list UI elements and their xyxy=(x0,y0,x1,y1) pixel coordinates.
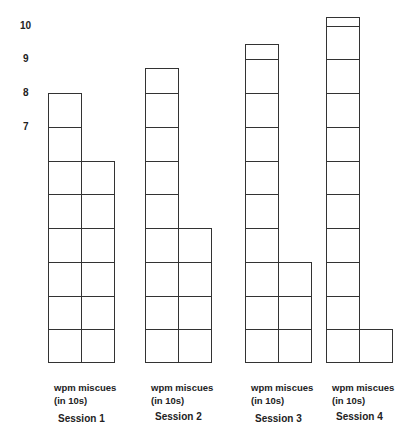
miscues-bar xyxy=(278,262,312,363)
y-tick-label: 7 xyxy=(23,121,29,132)
wpm-bar xyxy=(48,93,82,363)
y-tick-label: 8 xyxy=(23,87,29,98)
bar-series-label: wpm miscues(in 10s) xyxy=(332,381,394,407)
cell-divider xyxy=(82,262,114,263)
cell-divider xyxy=(246,296,278,297)
cell-divider xyxy=(327,59,359,60)
cell-divider xyxy=(327,26,359,27)
cell-divider xyxy=(246,161,278,162)
cell-divider xyxy=(146,93,178,94)
cell-divider xyxy=(327,329,359,330)
cell-divider xyxy=(327,161,359,162)
cell-divider xyxy=(49,262,81,263)
cell-divider xyxy=(179,296,211,297)
cell-divider xyxy=(327,93,359,94)
cell-divider xyxy=(82,296,114,297)
cell-divider xyxy=(49,127,81,128)
session-label: Session 2 xyxy=(155,411,202,422)
cell-divider xyxy=(49,329,81,330)
miscues-bar xyxy=(178,228,212,363)
cell-divider xyxy=(146,262,178,263)
cell-divider xyxy=(146,161,178,162)
cell-divider xyxy=(246,262,278,263)
cell-divider xyxy=(49,161,81,162)
wpm-bar xyxy=(245,44,279,363)
cell-divider xyxy=(82,329,114,330)
cell-divider xyxy=(146,194,178,195)
cell-divider xyxy=(246,127,278,128)
wpm-bar xyxy=(326,17,360,363)
y-tick-label: 10 xyxy=(20,20,31,31)
session-bar-chart: 78910 wpm miscues(in 10s)Session 1wpm mi… xyxy=(0,0,414,435)
cell-divider xyxy=(179,262,211,263)
wpm-bar xyxy=(145,68,179,363)
cell-divider xyxy=(246,228,278,229)
bar-series-label: wpm miscues(in 10s) xyxy=(54,381,116,407)
cell-divider xyxy=(279,296,311,297)
cell-divider xyxy=(146,296,178,297)
cell-divider xyxy=(327,228,359,229)
cell-divider xyxy=(146,127,178,128)
cell-divider xyxy=(49,228,81,229)
cell-divider xyxy=(327,296,359,297)
bar-series-label: wpm miscues(in 10s) xyxy=(251,381,313,407)
cell-divider xyxy=(246,194,278,195)
cell-divider xyxy=(82,194,114,195)
bar-series-label: wpm miscues(in 10s) xyxy=(151,381,213,407)
miscues-bar xyxy=(359,329,393,363)
session-label: Session 1 xyxy=(58,413,105,424)
cell-divider xyxy=(327,194,359,195)
cell-divider xyxy=(82,228,114,229)
cell-divider xyxy=(246,93,278,94)
cell-divider xyxy=(246,59,278,60)
cell-divider xyxy=(246,329,278,330)
cell-divider xyxy=(327,127,359,128)
cell-divider xyxy=(49,194,81,195)
cell-divider xyxy=(146,329,178,330)
y-tick-label: 9 xyxy=(23,53,29,64)
cell-divider xyxy=(49,296,81,297)
miscues-bar xyxy=(81,161,115,364)
cell-divider xyxy=(179,329,211,330)
session-label: Session 4 xyxy=(336,411,383,422)
cell-divider xyxy=(327,262,359,263)
cell-divider xyxy=(279,329,311,330)
session-label: Session 3 xyxy=(255,413,302,424)
cell-divider xyxy=(146,228,178,229)
